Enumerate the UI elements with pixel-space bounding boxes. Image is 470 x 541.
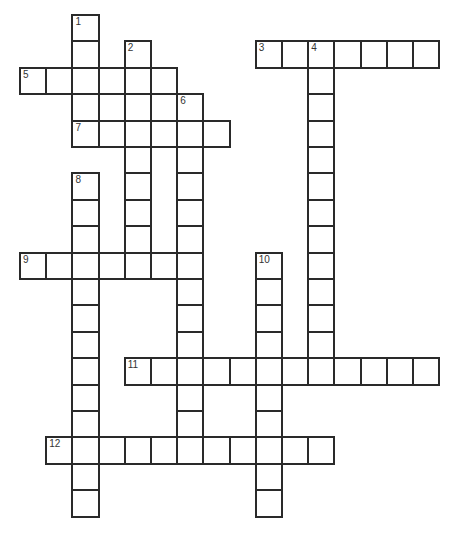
crossword-cell[interactable] xyxy=(176,278,204,306)
crossword-cell[interactable] xyxy=(98,67,126,95)
crossword-cell[interactable] xyxy=(412,357,440,385)
crossword-cell[interactable] xyxy=(124,93,152,121)
crossword-cell[interactable]: 1 xyxy=(71,14,99,42)
crossword-cell[interactable] xyxy=(45,67,73,95)
crossword-cell[interactable] xyxy=(176,120,204,148)
crossword-cell[interactable]: 8 xyxy=(71,172,99,200)
crossword-cell[interactable] xyxy=(71,410,99,438)
crossword-cell[interactable] xyxy=(307,278,335,306)
crossword-cell[interactable] xyxy=(307,146,335,174)
crossword-cell[interactable] xyxy=(71,225,99,253)
crossword-cell[interactable] xyxy=(255,304,283,332)
crossword-cell[interactable]: 9 xyxy=(19,252,47,280)
crossword-cell[interactable] xyxy=(229,436,257,464)
crossword-cell[interactable] xyxy=(71,252,99,280)
crossword-cell[interactable] xyxy=(71,489,99,517)
crossword-cell[interactable]: 5 xyxy=(19,67,47,95)
crossword-cell[interactable] xyxy=(255,410,283,438)
crossword-cell[interactable]: 2 xyxy=(124,40,152,68)
crossword-cell[interactable] xyxy=(255,384,283,412)
crossword-cell[interactable] xyxy=(71,199,99,227)
crossword-cell[interactable] xyxy=(307,357,335,385)
crossword-cell[interactable] xyxy=(71,357,99,385)
crossword-cell[interactable] xyxy=(98,436,126,464)
crossword-cell[interactable] xyxy=(229,357,257,385)
crossword-cell[interactable] xyxy=(150,93,178,121)
crossword-cell[interactable] xyxy=(71,40,99,68)
crossword-cell[interactable] xyxy=(307,436,335,464)
crossword-cell[interactable]: 11 xyxy=(124,357,152,385)
crossword-cell[interactable] xyxy=(255,357,283,385)
crossword-cell[interactable] xyxy=(281,436,309,464)
crossword-cell[interactable] xyxy=(307,199,335,227)
crossword-cell[interactable] xyxy=(124,199,152,227)
crossword-cell[interactable] xyxy=(150,357,178,385)
crossword-cell[interactable] xyxy=(124,252,152,280)
crossword-cell[interactable] xyxy=(71,278,99,306)
crossword-cell[interactable] xyxy=(150,120,178,148)
crossword-cell[interactable] xyxy=(255,278,283,306)
crossword-cell[interactable] xyxy=(71,67,99,95)
crossword-cell[interactable]: 3 xyxy=(255,40,283,68)
crossword-cell[interactable] xyxy=(176,410,204,438)
crossword-cell[interactable] xyxy=(386,40,414,68)
crossword-cell[interactable] xyxy=(333,357,361,385)
crossword-cell[interactable] xyxy=(124,436,152,464)
crossword-cell[interactable]: 10 xyxy=(255,252,283,280)
crossword-cell[interactable] xyxy=(176,331,204,359)
crossword-cell[interactable] xyxy=(124,67,152,95)
crossword-cell[interactable] xyxy=(98,93,126,121)
crossword-cell[interactable] xyxy=(71,463,99,491)
crossword-cell[interactable] xyxy=(71,436,99,464)
crossword-cell[interactable] xyxy=(307,331,335,359)
crossword-cell[interactable] xyxy=(202,120,230,148)
crossword-cell[interactable] xyxy=(281,357,309,385)
crossword-cell[interactable] xyxy=(307,225,335,253)
crossword-cell[interactable]: 4 xyxy=(307,40,335,68)
crossword-cell[interactable] xyxy=(255,489,283,517)
crossword-cell[interactable] xyxy=(176,199,204,227)
crossword-cell[interactable] xyxy=(98,252,126,280)
crossword-cell[interactable] xyxy=(176,172,204,200)
crossword-cell[interactable] xyxy=(307,304,335,332)
crossword-cell[interactable] xyxy=(307,93,335,121)
crossword-cell[interactable] xyxy=(202,436,230,464)
crossword-cell[interactable] xyxy=(307,172,335,200)
crossword-cell[interactable] xyxy=(71,384,99,412)
crossword-cell[interactable] xyxy=(176,357,204,385)
crossword-cell[interactable] xyxy=(71,331,99,359)
crossword-cell[interactable] xyxy=(124,120,152,148)
crossword-cell[interactable] xyxy=(281,40,309,68)
crossword-cell[interactable]: 6 xyxy=(176,93,204,121)
crossword-cell[interactable] xyxy=(150,252,178,280)
crossword-cell[interactable] xyxy=(307,67,335,95)
crossword-cell[interactable] xyxy=(307,252,335,280)
crossword-cell[interactable]: 12 xyxy=(45,436,73,464)
crossword-cell[interactable] xyxy=(255,436,283,464)
crossword-cell[interactable] xyxy=(307,120,335,148)
crossword-cell[interactable] xyxy=(124,225,152,253)
crossword-cell[interactable] xyxy=(360,357,388,385)
crossword-cell[interactable] xyxy=(255,463,283,491)
crossword-cell[interactable] xyxy=(124,146,152,174)
crossword-cell[interactable] xyxy=(98,120,126,148)
crossword-cell[interactable] xyxy=(412,40,440,68)
crossword-cell[interactable] xyxy=(176,384,204,412)
crossword-cell[interactable] xyxy=(176,146,204,174)
crossword-cell[interactable] xyxy=(333,40,361,68)
crossword-cell[interactable] xyxy=(176,225,204,253)
crossword-cell[interactable] xyxy=(202,357,230,385)
crossword-cell[interactable] xyxy=(45,252,73,280)
crossword-cell[interactable] xyxy=(176,252,204,280)
crossword-cell[interactable] xyxy=(71,304,99,332)
crossword-cell[interactable] xyxy=(360,40,388,68)
crossword-cell[interactable] xyxy=(176,436,204,464)
crossword-cell[interactable] xyxy=(150,67,178,95)
crossword-cell[interactable] xyxy=(386,357,414,385)
crossword-cell[interactable] xyxy=(150,436,178,464)
crossword-cell[interactable] xyxy=(176,304,204,332)
crossword-cell[interactable] xyxy=(255,331,283,359)
crossword-cell[interactable]: 7 xyxy=(71,120,99,148)
crossword-cell[interactable] xyxy=(71,93,99,121)
crossword-cell[interactable] xyxy=(124,172,152,200)
